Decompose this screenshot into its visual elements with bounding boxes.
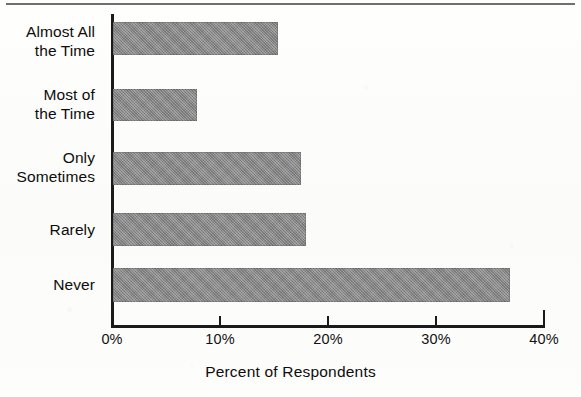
- x-tick-label-20: 20%: [313, 331, 342, 347]
- x-tick-10: [219, 316, 221, 325]
- bar-chart-figure: Almost All the Time Most of the Time Onl…: [0, 0, 581, 397]
- bar-rarely: [113, 213, 306, 246]
- bar-almost-all-the-time: [113, 22, 278, 55]
- category-label-most-of-the-time: Most of the Time: [35, 85, 95, 123]
- x-tick-0: [111, 310, 113, 325]
- category-label-almost-all-the-time: Almost All the Time: [26, 22, 95, 60]
- bar-most-of-the-time: [113, 89, 197, 121]
- x-tick-label-30: 30%: [421, 331, 450, 347]
- bar-never: [113, 268, 510, 302]
- x-tick-label-0: 0%: [101, 331, 122, 347]
- category-label-only-sometimes: Only Sometimes: [17, 148, 95, 186]
- category-label-rarely: Rarely: [50, 220, 95, 239]
- x-tick-30: [435, 316, 437, 325]
- x-axis-title: Percent of Respondents: [0, 363, 581, 381]
- plot-area: Almost All the Time Most of the Time Onl…: [0, 0, 581, 397]
- x-tick-40: [543, 310, 545, 325]
- x-tick-label-40: 40%: [529, 331, 558, 347]
- x-tick-label-10: 10%: [205, 331, 234, 347]
- category-label-never: Never: [53, 275, 95, 294]
- bar-only-sometimes: [113, 152, 301, 185]
- x-tick-20: [327, 316, 329, 325]
- x-axis-line: [111, 325, 545, 328]
